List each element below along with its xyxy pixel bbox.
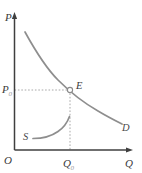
supply-curve-label: S [23,131,29,142]
equilibrium-point-marker [67,87,72,92]
equilibrium-quantity-subscript: 0 [71,164,75,172]
x-axis-label: Q [125,157,133,169]
x-axis-arrow-icon [126,147,133,152]
chart-canvas: P Q O P 0 Q 0 E D S [0,0,142,173]
supply-curve [33,117,70,139]
equilibrium-price-subscript: 0 [9,90,13,98]
equilibrium-point-label: E [75,80,83,91]
demand-curve-label: D [121,122,130,133]
y-axis-arrow-icon [12,12,17,19]
origin-label: O [4,154,12,166]
supply-demand-equilibrium-figure: P Q O P 0 Q 0 E D S [0,0,142,173]
y-axis-label: P [4,11,12,23]
demand-curve [25,32,122,124]
